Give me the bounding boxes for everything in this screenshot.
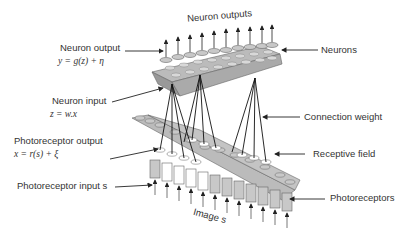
photoreceptors-label: Photoreceptors xyxy=(330,192,394,203)
neuron-output-label: Neuron output xyxy=(60,42,120,53)
photoreceptor-input-label: Photoreceptor input s xyxy=(17,180,107,191)
receptive-field-label: Receptive field xyxy=(313,148,375,159)
neuron-input-label: Neuron input xyxy=(52,95,106,106)
neuron-output-equation: y = g(z) + η xyxy=(58,56,104,66)
photoreceptor-layer xyxy=(132,115,300,211)
photoreceptor-output-label: Photoreceptor output xyxy=(14,135,103,146)
neurons-label: Neurons xyxy=(321,44,357,55)
connection-weight-label: Connection weight xyxy=(304,111,382,122)
neuron-input-equation: z = w.x xyxy=(50,109,77,119)
photoreceptor-output-equation: x = r(s) + ξ xyxy=(14,149,58,159)
